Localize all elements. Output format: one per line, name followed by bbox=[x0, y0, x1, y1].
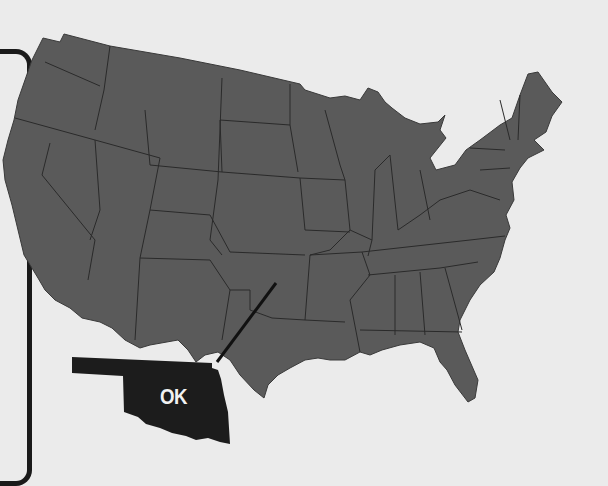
oklahoma-highlight-shape bbox=[72, 357, 230, 444]
state-abbreviation-label: OK bbox=[160, 384, 187, 410]
contiguous-us-shape bbox=[3, 34, 562, 402]
